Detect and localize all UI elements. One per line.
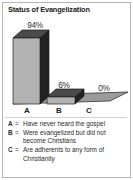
legend-equals: = <box>15 146 23 163</box>
legend-row-b: B = Were evangelized but did not become … <box>8 129 126 146</box>
axis-label-a: A <box>24 106 30 115</box>
bar-c-value-label: 0% <box>98 83 110 93</box>
divider-line <box>5 117 127 118</box>
chart-card: Status of Evangelization 94% 6% 0% A B C… <box>2 2 131 178</box>
bar-a-value-label: 94% <box>27 20 44 30</box>
legend-key-c: C <box>8 146 15 163</box>
axis-label-c: C <box>86 106 92 115</box>
chart-title: Status of Evangelization <box>8 5 128 14</box>
legend-row-c: C = Are adherents to any form of Christi… <box>8 146 126 163</box>
legend-key-a: A <box>8 120 15 129</box>
legend-equals: = <box>15 129 23 146</box>
legend-text-b: Were evangelized but did not become Chri… <box>23 129 126 146</box>
bar-a-front <box>13 38 40 104</box>
legend-text-a: Have never heard the gospel <box>23 120 126 129</box>
legend-equals: = <box>15 120 23 129</box>
bar-b-value-label: 6% <box>58 80 70 90</box>
bar-b-front <box>47 97 75 104</box>
bar-a-side <box>40 30 49 104</box>
axis-label-b: B <box>56 106 62 115</box>
legend: A = Have never heard the gospel B = Were… <box>8 120 126 164</box>
legend-text-c: Are adherents to any form of Christianit… <box>23 146 126 163</box>
bar-chart: 94% 6% 0% A B C <box>3 16 130 118</box>
legend-row-a: A = Have never heard the gospel <box>8 120 126 129</box>
legend-key-b: B <box>8 129 15 146</box>
